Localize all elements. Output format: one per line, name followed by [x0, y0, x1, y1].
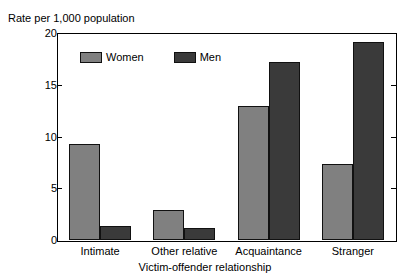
men-swatch-icon [174, 52, 196, 63]
y-tick-label: 0 [9, 235, 57, 246]
legend-label-women: Women [106, 51, 144, 63]
y-tick-label: 10 [9, 132, 57, 143]
y-axis-title: Rate per 1,000 population [8, 12, 135, 25]
y-tick-label: 20 [9, 28, 57, 39]
bar-acquaintance-women [238, 106, 269, 240]
bar-stranger-women [322, 164, 353, 240]
y-tick-label: 15 [9, 80, 57, 91]
bar-acquaintance-men [269, 62, 300, 240]
bar-intimate-women [69, 144, 100, 240]
y-tick-label: 5 [9, 183, 57, 194]
x-axis-labels: IntimateOther relativeAcquaintanceStrang… [57, 245, 396, 259]
legend-label-men: Men [200, 51, 221, 63]
legend-item-women: Women [80, 51, 144, 63]
y-axis: 05101520 [0, 33, 57, 240]
bar-chart: Rate per 1,000 population 05101520 Women… [0, 0, 410, 279]
x-axis-title: Victim-offender relationship [0, 261, 410, 273]
legend-item-men: Men [174, 51, 221, 63]
x-tick-label: Other relative [151, 245, 217, 257]
legend: Women Men [80, 51, 221, 63]
x-tick-label: Acquaintance [235, 245, 302, 257]
bar-intimate-men [100, 226, 131, 240]
x-tick-label: Intimate [81, 245, 120, 257]
bar-other-relative-women [153, 210, 184, 240]
bar-stranger-men [353, 42, 384, 240]
bars-layer [58, 34, 395, 240]
women-swatch-icon [80, 52, 102, 63]
bar-other-relative-men [184, 228, 215, 240]
x-tick-label: Stranger [332, 245, 374, 257]
